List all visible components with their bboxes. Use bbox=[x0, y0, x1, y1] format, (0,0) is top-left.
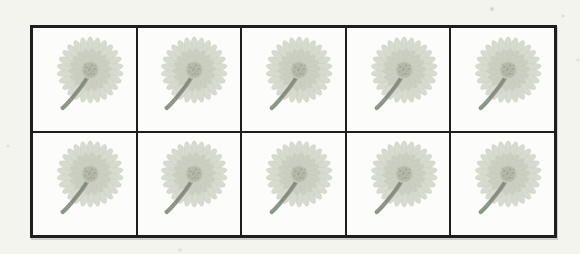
flower-grid bbox=[30, 25, 557, 238]
daisy-flower-image bbox=[37, 32, 132, 127]
daisy-flower-image bbox=[351, 136, 446, 231]
daisy-flower-image bbox=[246, 32, 341, 127]
flower-cell bbox=[347, 28, 450, 131]
flower-cell bbox=[451, 133, 554, 236]
flower-cell bbox=[33, 133, 136, 236]
flower-cell bbox=[451, 28, 554, 131]
daisy-flower-image bbox=[455, 32, 550, 127]
worksheet-page bbox=[0, 0, 580, 254]
daisy-flower-image bbox=[37, 136, 132, 231]
flower-cell bbox=[138, 133, 241, 236]
flower-cell bbox=[138, 28, 241, 131]
daisy-flower-image bbox=[141, 32, 236, 127]
flower-cell bbox=[33, 28, 136, 131]
flower-cell bbox=[347, 133, 450, 236]
daisy-flower-image bbox=[141, 136, 236, 231]
daisy-flower-image bbox=[455, 136, 550, 231]
flower-cell bbox=[242, 28, 345, 131]
daisy-flower-image bbox=[351, 32, 446, 127]
daisy-flower-image bbox=[246, 136, 341, 231]
flower-cell bbox=[242, 133, 345, 236]
